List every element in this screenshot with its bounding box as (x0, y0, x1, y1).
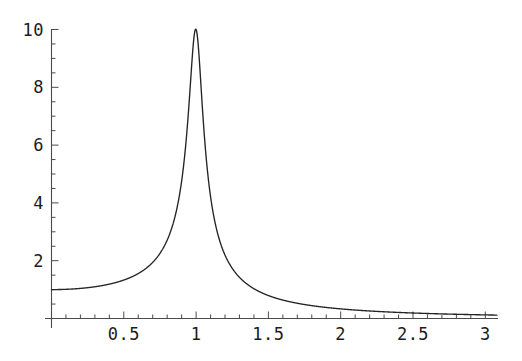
plot-figure: 246810 0.511.522.53 (0, 0, 522, 361)
resonance-curve-plot (0, 0, 522, 361)
data-curve (52, 29, 497, 315)
y-tick-label: 2 (33, 252, 44, 269)
x-tick-label: 1 (191, 326, 202, 343)
x-tick-label: 2.5 (397, 326, 429, 343)
x-tick-label: 0.5 (108, 326, 140, 343)
y-tick-label: 4 (33, 194, 44, 211)
x-tick-label: 3 (480, 326, 491, 343)
y-tick-marks (52, 30, 59, 305)
x-tick-marks (66, 312, 485, 319)
x-tick-label: 2 (335, 326, 346, 343)
x-tick-label: 1.5 (252, 326, 284, 343)
y-tick-label: 8 (33, 79, 44, 96)
y-tick-label: 6 (33, 137, 44, 154)
y-tick-label: 10 (23, 21, 44, 38)
